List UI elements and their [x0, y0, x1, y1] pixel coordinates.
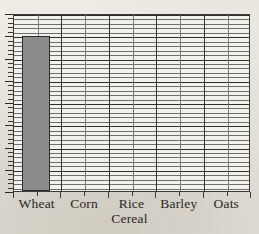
x-label-barley: Barley [155, 196, 202, 212]
y-tick-minor [8, 72, 13, 73]
y-tick-minor [8, 112, 13, 113]
y-tick-minor [8, 174, 13, 175]
y-tick-minor [8, 134, 13, 135]
y-tick-minor [8, 183, 13, 184]
y-tick-major [5, 148, 13, 149]
y-tick-minor [8, 152, 13, 153]
y-tick-minor [8, 165, 13, 166]
y-tick-minor [8, 85, 13, 86]
y-tick-major [5, 81, 13, 82]
y-tick-minor [8, 67, 13, 68]
gridline-minor-horizontal [14, 24, 249, 25]
x-label-wheat: Wheat [13, 196, 60, 212]
y-tick-major [5, 59, 13, 60]
y-tick-major [5, 125, 13, 126]
gridline-minor-vertical [133, 15, 134, 191]
y-tick-minor [8, 23, 13, 24]
y-tick-minor [8, 156, 13, 157]
y-tick-minor [8, 116, 13, 117]
gridline-major-vertical [204, 15, 205, 191]
x-tick [250, 192, 251, 198]
y-tick-minor [8, 18, 13, 19]
x-label-rice: Rice [108, 196, 155, 212]
bar-chart-figure: Wheat Corn Rice Barley Oats Cereal [0, 0, 259, 234]
y-tick-minor [8, 50, 13, 51]
gridline-major-horizontal [14, 15, 249, 16]
gridline-major-vertical [61, 15, 62, 191]
x-label-corn: Corn [60, 196, 107, 212]
gridline-minor-vertical [228, 15, 229, 191]
y-tick-minor [8, 76, 13, 77]
gridline-minor-vertical [85, 15, 86, 191]
y-tick-minor [8, 27, 13, 28]
y-tick-minor [8, 94, 13, 95]
y-tick-minor [8, 143, 13, 144]
bar-wheat [22, 36, 50, 191]
y-tick-major [5, 14, 13, 15]
gridline-minor-horizontal [14, 33, 249, 34]
x-label-oats: Oats [203, 196, 250, 212]
gridline-major-vertical [156, 15, 157, 191]
y-tick-minor [8, 188, 13, 189]
gridline-major-vertical [109, 15, 110, 191]
y-tick-major [5, 170, 13, 171]
x-axis-title: Cereal [0, 211, 259, 227]
gridline-minor-horizontal [14, 28, 249, 29]
y-tick-minor [8, 107, 13, 108]
y-tick-major [5, 36, 13, 37]
y-tick-minor [8, 139, 13, 140]
gridline-minor-vertical [180, 15, 181, 191]
y-tick-minor [8, 161, 13, 162]
plot-area [13, 14, 250, 192]
gridline-minor-horizontal [14, 19, 249, 20]
y-tick-major [5, 103, 13, 104]
y-tick-minor [8, 32, 13, 33]
y-tick-minor [8, 179, 13, 180]
y-tick-minor [8, 121, 13, 122]
y-tick-minor [8, 130, 13, 131]
y-tick-minor [8, 99, 13, 100]
y-tick-minor [8, 90, 13, 91]
y-tick-minor [8, 41, 13, 42]
y-tick-minor [8, 45, 13, 46]
y-tick-major [5, 192, 13, 193]
y-tick-minor [8, 63, 13, 64]
y-tick-minor [8, 54, 13, 55]
